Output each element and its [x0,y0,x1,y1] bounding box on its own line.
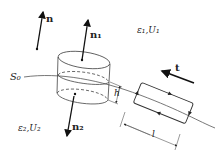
label-t: t [175,63,180,73]
label-surface: S₀ [10,72,21,82]
label-height: h [114,89,120,98]
label-n1: n₁ [90,30,102,40]
rectangular-loop [131,80,196,127]
normal-vector-n [36,12,43,50]
label-length: l [152,130,155,139]
label-n2: n₂ [72,122,84,132]
label-region1: ε₁,U₁ [137,26,160,35]
normal-vector-n1 [81,20,88,61]
label-region2: ε₂,U₂ [18,124,41,133]
label-n: n [46,14,53,24]
